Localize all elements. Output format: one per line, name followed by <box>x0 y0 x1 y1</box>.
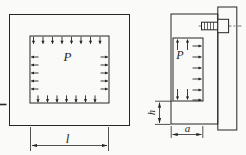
front-view: P l <box>10 15 130 152</box>
pressure-arrows-right <box>101 57 108 89</box>
side-pressure-arrows-down <box>178 89 188 99</box>
pressure-plate-figure: P l <box>0 0 246 155</box>
bolt <box>199 19 242 32</box>
side-pressure-arrows-right <box>193 46 202 100</box>
front-pressure-region <box>30 36 109 103</box>
side-view: P h <box>146 7 242 138</box>
front-pressure-label: P <box>63 49 72 64</box>
side-plate <box>171 14 218 124</box>
pressure-arrows-left <box>31 57 38 89</box>
dimension-a-label: a <box>185 122 191 134</box>
dimension-l: l <box>31 127 109 151</box>
dimension-h: h <box>146 101 173 124</box>
pressure-arrows-top <box>34 37 101 44</box>
pressure-arrows-bottom <box>38 95 95 102</box>
dimension-l-label: l <box>66 131 70 146</box>
bolt-head <box>218 19 229 32</box>
front-outer-plate <box>10 15 130 126</box>
engineering-drawing: P l <box>0 0 246 155</box>
bolt-shaft <box>202 22 218 30</box>
side-pressure-label: P <box>175 48 184 62</box>
dimension-h-label: h <box>146 110 157 115</box>
